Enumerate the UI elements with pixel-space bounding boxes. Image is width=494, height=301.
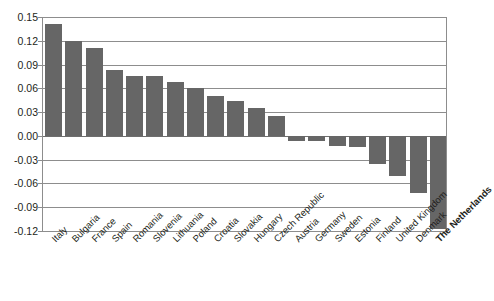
y-axis-line	[42, 17, 43, 232]
bar	[268, 116, 285, 136]
y-axis-tick-label: -0.06	[0, 178, 38, 188]
bar	[86, 48, 103, 136]
y-axis-tick-label: 0.15	[0, 12, 38, 22]
bar	[167, 82, 184, 136]
bar	[308, 136, 325, 142]
gridline	[42, 231, 447, 232]
bar	[45, 24, 62, 136]
plot-area	[42, 17, 447, 231]
plot-right-border	[446, 17, 447, 232]
bar	[106, 70, 123, 136]
bar	[248, 108, 265, 136]
gridline	[42, 17, 447, 18]
bar	[126, 76, 143, 136]
bar	[187, 88, 204, 136]
bar	[146, 76, 163, 136]
y-axis-tick-label: -0.03	[0, 155, 38, 165]
gridline	[42, 41, 447, 42]
y-axis-tick-label: 0.12	[0, 36, 38, 46]
y-axis-tick-label: 0.06	[0, 83, 38, 93]
gridline	[42, 112, 447, 113]
bar	[329, 136, 346, 146]
bar	[410, 136, 427, 193]
bar	[65, 41, 82, 136]
bar	[227, 101, 244, 136]
bar	[389, 136, 406, 176]
gridline	[42, 183, 447, 184]
y-axis-tick-label: 0.03	[0, 107, 38, 117]
bar	[288, 136, 305, 141]
y-axis-tick-label: 0.00	[0, 131, 38, 141]
gridline	[42, 65, 447, 66]
gridline	[42, 207, 447, 208]
bar	[207, 96, 224, 136]
bar	[430, 136, 447, 230]
y-axis-tick-label: -0.09	[0, 202, 38, 212]
y-axis-tick-label: -0.12	[0, 226, 38, 236]
bar	[349, 136, 366, 147]
zero-line	[42, 136, 447, 137]
gridline	[42, 88, 447, 89]
gridline	[42, 160, 447, 161]
bar	[369, 136, 386, 164]
y-axis-tick-label: 0.09	[0, 60, 38, 70]
